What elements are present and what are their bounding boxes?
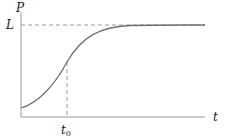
asymptote-label: L: [5, 18, 14, 32]
x-axis-label: t: [213, 110, 218, 124]
y-axis-label: P: [15, 1, 25, 15]
logistic-curve: [21, 25, 205, 108]
logistic-diagram: P L t t0: [0, 0, 227, 137]
t0-label: t0: [61, 123, 71, 137]
t0-label-sub: 0: [66, 129, 71, 137]
